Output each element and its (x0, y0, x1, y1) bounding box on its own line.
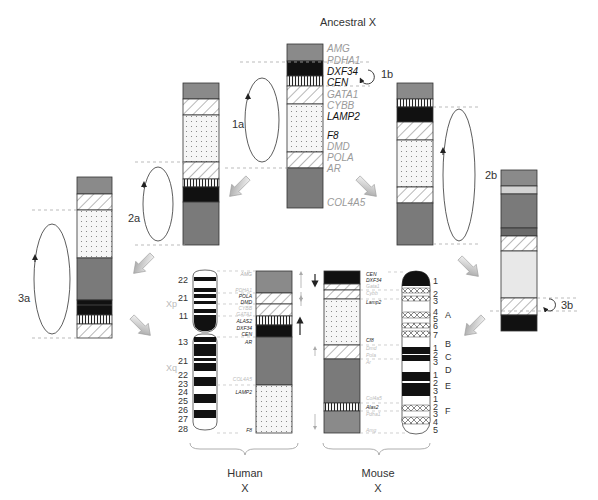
step-label-1b: 1b (381, 68, 393, 80)
evolution-diagram: Ancestral X AMG PDHA1 DXF34 CEN GATA1 CY… (0, 0, 598, 500)
svg-text:A: A (445, 310, 451, 320)
mouse-title-x: X (374, 482, 382, 494)
svg-text:Pola: Pola (366, 352, 376, 358)
inversion-loop-1a (245, 78, 279, 162)
svg-text:1: 1 (433, 276, 438, 286)
svg-text:F8: F8 (246, 427, 252, 433)
gene-label: CYBB (327, 100, 355, 111)
svg-text:21: 21 (178, 293, 188, 303)
svg-text:GATA1: GATA1 (236, 311, 252, 317)
svg-text:5: 5 (433, 425, 438, 435)
svg-text:Col4a5: Col4a5 (366, 395, 382, 401)
mouse-ideogram (402, 271, 430, 434)
svg-text:Dmd: Dmd (366, 345, 377, 351)
svg-text:AR: AR (244, 339, 252, 345)
svg-text:13: 13 (178, 337, 188, 347)
gene-label: COL4A5 (327, 197, 366, 208)
svg-text:Lamp2: Lamp2 (366, 299, 382, 305)
mouse-gene-labels: CEN DXF34 Gata1 Cybb Lamp2 Cf8 Dmd Pola … (365, 271, 382, 433)
svg-text:COL4A5: COL4A5 (233, 376, 252, 382)
human-band-labels: 22 21 11 13 21 22 23 24 25 26 27 28 Xp X… (166, 275, 188, 434)
mouse-band-numbers: 1 2 3 4 5 6 7 1 2 3 1 2 3 1 2 3 4 5 (433, 276, 438, 435)
svg-text:Cf8: Cf8 (366, 337, 374, 343)
gene-label: DMD (327, 141, 350, 152)
step-label-2b: 2b (485, 169, 497, 181)
human-block-column (256, 271, 292, 433)
svg-text:E: E (445, 381, 451, 391)
gene-label: POLA (327, 152, 354, 163)
transition-arrow (455, 253, 483, 281)
transition-arrow (129, 250, 157, 278)
human-orientation-arrows (300, 273, 301, 335)
svg-text:ALAS2: ALAS2 (235, 318, 252, 324)
svg-text:Alas2: Alas2 (365, 404, 379, 410)
mouse-block-column (324, 271, 360, 433)
svg-text:F: F (445, 406, 451, 416)
ancestral-title: Ancestral X (320, 16, 377, 28)
svg-text:28: 28 (178, 424, 188, 434)
arm-label-xp: Xp (166, 299, 177, 309)
gene-label: F8 (327, 130, 339, 141)
svg-text:CEN: CEN (241, 331, 252, 337)
transition-arrow (225, 173, 253, 201)
chromosome-step-2a (77, 177, 112, 338)
gene-label: GATA1 (327, 89, 358, 100)
mouse-title: Mouse (361, 467, 394, 479)
human-title-x: X (241, 482, 249, 494)
svg-text:Amg: Amg (365, 427, 377, 433)
gene-label: DXF34 (327, 66, 359, 77)
human-brace (190, 443, 298, 455)
svg-text:11: 11 (179, 311, 188, 321)
gene-label: PDHA1 (327, 55, 360, 66)
mouse-brace (323, 443, 430, 455)
inversion-loop-2a (143, 167, 173, 241)
rotation-arrow-1b (361, 70, 374, 84)
human-ideogram (193, 270, 217, 430)
chromosome-step-1a (183, 83, 219, 245)
svg-text:C: C (445, 352, 452, 362)
step-label-3a: 3a (18, 292, 31, 304)
svg-text:B: B (445, 339, 451, 349)
svg-text:Gata1: Gata1 (366, 283, 380, 289)
gene-label: LAMP2 (327, 111, 360, 122)
svg-text:3: 3 (433, 357, 438, 367)
svg-text:3: 3 (433, 296, 438, 306)
svg-text:D: D (445, 365, 452, 375)
human-gene-labels: AMG PDHA1 POLA DMD CYBB GATA1 ALAS2 DXF3… (233, 271, 253, 433)
arm-label-xq: Xq (166, 363, 177, 373)
chromosome-step-2b (501, 170, 537, 331)
svg-text:AMG: AMG (240, 271, 253, 277)
svg-text:7: 7 (433, 330, 438, 340)
gene-label: AR (326, 163, 341, 174)
svg-text:LAMP2: LAMP2 (236, 389, 253, 395)
transition-arrow (460, 312, 488, 340)
inversion-loop-2b (443, 109, 475, 241)
step-label-2a: 2a (128, 212, 141, 224)
human-title: Human (227, 467, 262, 479)
svg-text:27: 27 (178, 414, 188, 424)
step-label-1a: 1a (232, 118, 245, 130)
svg-text:Cybb: Cybb (366, 290, 378, 296)
ancestral-chromosome (287, 44, 323, 208)
rotation-arrow-3b (545, 299, 555, 311)
inversion-loop-3a (34, 224, 70, 334)
gene-label: AMG (326, 43, 350, 54)
svg-text:21: 21 (178, 356, 188, 366)
chromosome-step-1b (397, 83, 433, 245)
mouse-band-letters: A B C D E F (445, 310, 452, 416)
transition-arrow (127, 312, 155, 340)
gene-label: CEN (327, 77, 349, 88)
svg-text:Ar: Ar (365, 359, 371, 365)
svg-text:22: 22 (178, 275, 188, 285)
svg-text:Pdha1: Pdha1 (366, 411, 381, 417)
step-label-3b: 3b (561, 299, 573, 311)
